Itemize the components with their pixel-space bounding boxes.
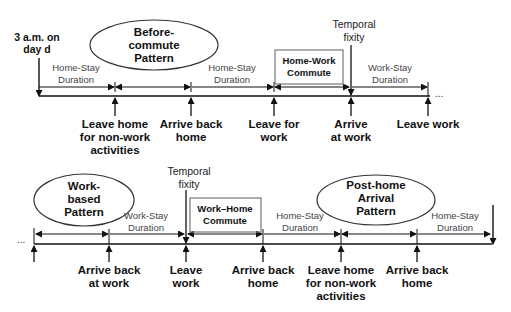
event-label: Leave home for non-work activities (306, 264, 376, 303)
temporal-fixity-label-top: Temporal fixity (332, 18, 375, 43)
day-start-label: 3 a.m. on day d (14, 31, 60, 55)
label-line: Home-Stay (52, 62, 100, 74)
duration-label: Home-Stay Duration (276, 210, 324, 233)
label-line: Leave work (397, 118, 460, 131)
label-line: Leave (170, 264, 203, 277)
label-line: commute (128, 39, 179, 52)
label-line: fixity (167, 178, 210, 191)
event-label: Arrive at work (331, 118, 371, 144)
duration-label: Home-Stay Duration (52, 62, 100, 85)
post-home-arrival-pattern-label: Post-home Arrival Pattern (346, 179, 405, 218)
event-label: Arrive back at work (78, 264, 141, 290)
work-based-pattern-label: Work- based Pattern (64, 180, 104, 219)
label-line: Duration (208, 74, 256, 86)
home-work-commute-label: Home-Work Commute (282, 55, 335, 78)
before-commute-pattern-label: Before- commute Pattern (128, 26, 179, 65)
label-line: fixity (332, 31, 375, 44)
temporal-fixity-label-bottom: Temporal fixity (167, 165, 210, 190)
label-line: Work-Stay (368, 62, 412, 74)
duration-label: Work-Stay Duration (368, 62, 412, 85)
label-line: home (160, 131, 223, 144)
event-label: Arrive back home (160, 118, 223, 144)
label-line: Temporal (332, 18, 375, 31)
label-line: Home-Stay (208, 62, 256, 74)
label-line: 3 a.m. on (14, 31, 60, 43)
label-line: Work- (64, 180, 104, 193)
label-line: Work-Stay (124, 210, 168, 222)
event-label: Leave work (397, 118, 460, 131)
duration-label: Home-Stay Duration (431, 210, 479, 233)
event-label: Arrive back home (232, 264, 295, 290)
label-line: activities (80, 144, 150, 157)
continuation-ellipsis: ... (435, 88, 443, 99)
label-line: Duration (368, 74, 412, 86)
label-line: for non-work (306, 277, 376, 290)
event-label: Leave for work (248, 118, 299, 144)
duration-label: Home-Stay Duration (208, 62, 256, 85)
label-line: Arrive back (78, 264, 141, 277)
label-line: Work–Home (197, 203, 252, 215)
label-line: based (64, 193, 104, 206)
label-line: Home-Work (282, 55, 335, 67)
label-line: Arrive back (160, 118, 223, 131)
label-line: Duration (276, 222, 324, 234)
label-line: Home-Stay (276, 210, 324, 222)
label-line: Leave home (80, 118, 150, 131)
label-line: Post-home (346, 179, 405, 192)
label-line: Commute (197, 215, 252, 227)
label-line: day d (14, 43, 60, 55)
label-line: Pattern (346, 205, 405, 218)
label-line: home (232, 277, 295, 290)
label-line: work (170, 277, 203, 290)
label-line: Leave home (306, 264, 376, 277)
label-line: Pattern (64, 206, 104, 219)
label-line: for non-work (80, 131, 150, 144)
label-line: Temporal (167, 165, 210, 178)
label-line: Arrive back (232, 264, 295, 277)
event-label: Arrive back home (386, 264, 449, 290)
label-line: Before- (128, 26, 179, 39)
label-line: Duration (431, 222, 479, 234)
label-line: Leave for (248, 118, 299, 131)
label-line: activities (306, 290, 376, 303)
label-line: Arrive back (386, 264, 449, 277)
label-line: home (386, 277, 449, 290)
label-line: Commute (282, 67, 335, 79)
label-line: Arrival (346, 192, 405, 205)
label-line: at work (78, 277, 141, 290)
label-line: work (248, 131, 299, 144)
label-line: Duration (124, 222, 168, 234)
event-label: Leave home for non-work activities (80, 118, 150, 157)
work-home-commute-label: Work–Home Commute (197, 203, 252, 226)
leading-ellipsis: ... (17, 234, 25, 245)
label-line: Duration (52, 74, 100, 86)
event-label: Leave work (170, 264, 203, 290)
label-line: Home-Stay (431, 210, 479, 222)
label-line: Arrive (331, 118, 371, 131)
label-line: at work (331, 131, 371, 144)
label-line: Pattern (128, 52, 179, 65)
duration-label: Work-Stay Duration (124, 210, 168, 233)
